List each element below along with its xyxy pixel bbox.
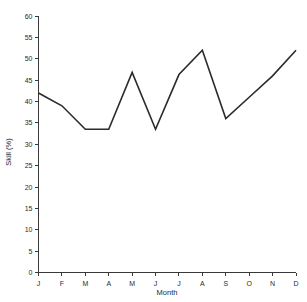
- y-tick-label: 20: [25, 184, 33, 191]
- x-tick-label: J: [177, 280, 181, 287]
- y-tick-label: 30: [25, 141, 33, 148]
- x-tick-label: O: [246, 280, 252, 287]
- x-tick-label: J: [154, 280, 158, 287]
- y-tick-label: 45: [25, 77, 33, 84]
- x-tick-label: N: [270, 280, 275, 287]
- y-tick-label: 10: [25, 226, 33, 233]
- line-chart-plot: 051015202530354045505560 JFMAMJJASOND Mo…: [0, 0, 307, 302]
- y-tick-label: 55: [25, 34, 33, 41]
- y-axis-title: Skill (%): [4, 138, 13, 166]
- x-tick-label: M: [129, 280, 135, 287]
- x-tick-label: S: [223, 280, 228, 287]
- x-tick-label: A: [106, 280, 111, 287]
- x-tick-group: JFMAMJJASOND: [37, 273, 299, 287]
- y-tick-label: 0: [29, 269, 33, 276]
- chart-container: 051015202530354045505560 JFMAMJJASOND Mo…: [0, 0, 307, 302]
- x-tick-label: D: [293, 280, 298, 287]
- y-tick-label: 25: [25, 162, 33, 169]
- x-tick-label: A: [200, 280, 205, 287]
- x-tick-label: J: [37, 280, 41, 287]
- y-tick-label: 50: [25, 55, 33, 62]
- x-tick-label: F: [60, 280, 64, 287]
- series-line-skill: [39, 50, 297, 129]
- y-tick-label: 40: [25, 98, 33, 105]
- y-tick-label: 5: [29, 248, 33, 255]
- y-tick-label: 60: [25, 13, 33, 20]
- y-tick-label: 35: [25, 119, 33, 126]
- x-axis-title: Month: [157, 288, 178, 297]
- y-tick-label: 15: [25, 205, 33, 212]
- y-tick-group: 051015202530354045505560: [25, 13, 39, 277]
- x-tick-label: M: [82, 280, 88, 287]
